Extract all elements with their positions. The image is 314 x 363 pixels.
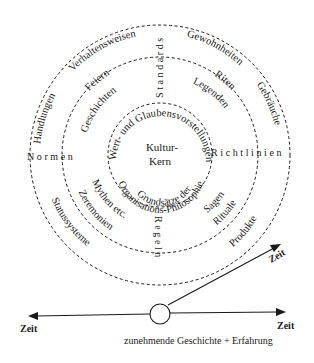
axis-label-richtlinien: Richtlinien bbox=[211, 147, 284, 158]
timeline-left-line bbox=[36, 314, 150, 316]
timeline-caption: zunehmende Geschichte + Erfahrung bbox=[124, 335, 273, 346]
arrow-left-icon bbox=[28, 312, 38, 320]
timeline-diagonal-line bbox=[168, 247, 276, 305]
time-label-right: Zeit bbox=[277, 320, 295, 331]
outer-label-gewohnheiten: Gewohnheiten bbox=[186, 28, 246, 68]
axis-label-normen: Normen bbox=[27, 151, 75, 162]
outer-label-verhaltensweisen: Verhaltensweisen bbox=[66, 27, 137, 73]
time-label-diagonal: Zeit bbox=[267, 246, 288, 264]
core-label-line2: Kern bbox=[149, 155, 171, 167]
outer-label-gebraeuche: Gebräuche bbox=[255, 79, 284, 126]
outer-label-produkte: Produkte bbox=[227, 213, 259, 249]
culture-model-diagram: Kultur- Kern Wert- und Glaubensvorstellu… bbox=[0, 0, 314, 363]
timeline-origin-circle bbox=[150, 304, 170, 324]
core-label-line1: Kultur- bbox=[146, 141, 178, 153]
time-label-left: Zeit bbox=[20, 323, 38, 334]
arrow-right-icon bbox=[276, 308, 286, 316]
axis-label-standards: Standards bbox=[154, 35, 165, 98]
timeline-right-line bbox=[170, 312, 278, 313]
axis-label-regeln: Regeln bbox=[153, 216, 164, 260]
mid-label-geschichten: Geschichten bbox=[78, 84, 118, 134]
